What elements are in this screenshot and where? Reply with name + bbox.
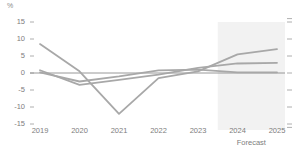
y-axis-tick-label: 15 [3, 17, 25, 26]
y-axis-tick-label: -10 [3, 102, 25, 111]
x-axis-tick-label: 2020 [62, 126, 98, 135]
x-axis-tick-label: 2024 [220, 126, 256, 135]
x-axis-tick-label: 2023 [180, 126, 216, 135]
x-axis-tick-label: 2025 [259, 126, 295, 135]
y-axis-tick-label: 10 [3, 34, 25, 43]
forecast-shaded-band [218, 22, 285, 130]
x-axis-tick-label: 2021 [101, 126, 137, 135]
y-axis-tick-label: 0 [3, 68, 25, 77]
y-axis-tick-label: 5 [3, 51, 25, 60]
x-axis-tick-label: 2019 [22, 126, 58, 135]
forecast-caption: Forecast [221, 138, 281, 147]
x-axis-tick-label: 2022 [141, 126, 177, 135]
line-chart: % 151050-5-10-15 20192020202120222023202… [0, 0, 299, 150]
y-axis-right-ticks [287, 19, 292, 128]
y-axis-tick-label: -5 [3, 85, 25, 94]
